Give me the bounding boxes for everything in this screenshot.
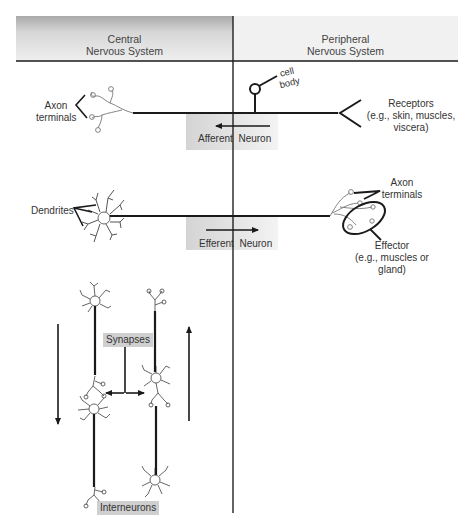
- effector-label: Effector (e.g., muscles or gland): [342, 240, 442, 276]
- effector-line3: gland): [342, 264, 442, 276]
- afferent-neuron-label: Afferent Neuron: [198, 133, 271, 145]
- efferent-neuron-label: Efferent Neuron: [199, 238, 272, 250]
- effector-icon: [338, 195, 391, 241]
- efferent-label-left: Efferent: [199, 238, 234, 249]
- efferent-neuron: [74, 190, 390, 242]
- effector-line2: (e.g., muscles or: [342, 252, 442, 264]
- afferent-axon-terminals-label: Axon terminals: [36, 100, 76, 124]
- afferent-axon-terminals-line2: terminals: [36, 112, 76, 124]
- receptors-line2: (e.g., skin, muscles,: [356, 110, 466, 122]
- afferent-label-left: Afferent: [198, 133, 233, 144]
- afferent-neuron: [76, 76, 361, 132]
- cell-body-icon: [250, 84, 260, 94]
- interneurons-tag: Interneurons: [97, 501, 159, 515]
- receptors-line1: Receptors: [356, 98, 466, 110]
- effector-line1: Effector: [342, 240, 442, 252]
- afferent-axon-terminals-line1: Axon: [36, 100, 76, 112]
- efferent-axon-terminals-line2: terminals: [378, 189, 426, 201]
- efferent-axon-terminals-line1: Axon: [378, 177, 426, 189]
- receptors-label: Receptors (e.g., skin, muscles, viscera): [356, 98, 466, 134]
- synapses-tag: Synapses: [103, 333, 153, 347]
- efferent-axon-terminals-label: Axon terminals: [378, 177, 426, 201]
- interneurons: [78, 282, 170, 510]
- receptors-line3: viscera): [356, 122, 466, 134]
- afferent-axon-terminals-icon: [90, 87, 133, 133]
- dendrites-label: Dendrites: [31, 205, 74, 217]
- efferent-label-right: Neuron: [239, 238, 272, 249]
- afferent-label-right: Neuron: [238, 133, 271, 144]
- efferent-cell-body-icon: [98, 212, 110, 224]
